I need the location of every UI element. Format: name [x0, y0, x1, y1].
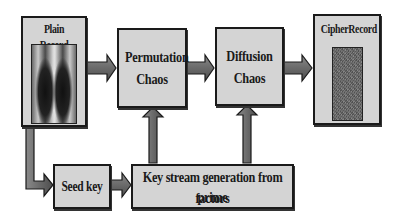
arrow-seed-to-keystream: [111, 173, 131, 197]
encrypted-noise-image: [332, 47, 363, 121]
arrow-plain-to-permutation: [87, 55, 116, 81]
key-stream-node: Key stream generation from prime factors: [131, 164, 294, 209]
arrow-diffusion-to-cipher: [284, 55, 312, 81]
arrow-keystream-to-diffusion: [237, 105, 257, 163]
arrow-keystream-to-permutation: [143, 107, 163, 163]
permutation-label-line1: Permutation: [125, 46, 179, 68]
cipher-record-label: CipherRecord: [321, 21, 373, 37]
key-stream-label-line2: factors: [147, 188, 277, 208]
seed-key-label: Seed key: [60, 176, 104, 198]
diffusion-label-line1: Diffusion: [223, 45, 276, 67]
plain-record-node: Plain Record: [21, 16, 87, 127]
arrow-plain-to-seed: [26, 127, 53, 196]
arrow-permutation-to-diffusion: [187, 55, 214, 81]
diffusion-chaos-node: Diffusion Chaos: [215, 27, 284, 106]
cipher-record-node: CipherRecord: [313, 14, 381, 125]
permutation-label-line2: Chaos: [125, 68, 179, 90]
permutation-chaos-node: Permutation Chaos: [117, 28, 187, 108]
seed-key-node: Seed key: [53, 164, 111, 209]
diffusion-label-line2: Chaos: [223, 67, 276, 89]
chest-xray-image: [31, 44, 77, 124]
